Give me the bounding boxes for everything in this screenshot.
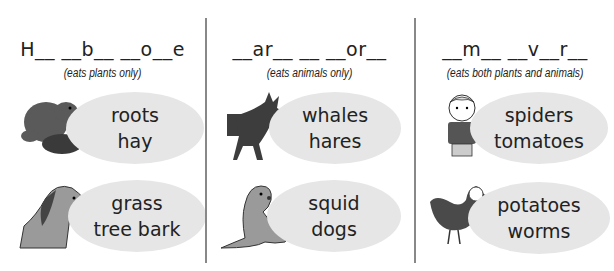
food-item: dogs: [311, 216, 357, 242]
food-item: roots: [111, 102, 159, 128]
column-carnivore: __ar__ __ __or__ (eats animals only) wha…: [207, 0, 412, 271]
column-subtitle: (eats both plants and animals): [431, 66, 599, 80]
column-heading: __ar__ __ __or__: [207, 38, 412, 60]
column-subtitle: (eats animals only): [222, 66, 396, 80]
column-subtitle: (eats plants only): [15, 66, 189, 80]
food-item: potatoes: [497, 192, 580, 218]
food-bubble: grass tree bark: [68, 180, 206, 252]
food-bubble: spiders tomatoes: [470, 92, 608, 164]
food-bubble: squid dogs: [267, 180, 401, 252]
food-item: grass: [111, 190, 162, 216]
column-herbivore: H__ __b__ __o__e (eats plants only) root…: [0, 0, 205, 271]
food-item: hares: [309, 128, 362, 154]
food-item: worms: [507, 218, 570, 244]
food-bubble: potatoes worms: [468, 182, 610, 254]
food-item: squid: [308, 190, 359, 216]
food-item: whales: [302, 102, 368, 128]
column-heading: __m__ __v__r__: [416, 38, 614, 60]
food-bubble: whales hares: [269, 92, 401, 164]
food-item: hay: [118, 128, 153, 154]
food-item: tree bark: [94, 216, 181, 242]
column-omnivore: __m__ __v__r__ (eats both plants and ani…: [416, 0, 614, 271]
food-item: spiders: [505, 102, 574, 128]
food-item: tomatoes: [494, 128, 584, 154]
food-bubble: roots hay: [66, 92, 204, 164]
column-heading: H__ __b__ __o__e: [0, 38, 205, 60]
